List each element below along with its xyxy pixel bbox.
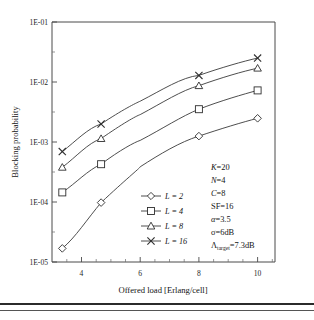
legend-label: L = 8 xyxy=(164,222,183,231)
legend-label: L = 16 xyxy=(164,237,188,246)
y-tick-label: 1E-05 xyxy=(29,258,48,267)
y-tick-label: 1E-04 xyxy=(29,198,48,207)
y-tick-label: 1E-03 xyxy=(29,138,48,147)
x-axis-ticks xyxy=(67,257,272,262)
param-symbol: SF xyxy=(211,202,221,211)
param-value: =6dB xyxy=(216,228,235,237)
x-tick-label: 4 xyxy=(80,269,84,278)
param-line-sigma: σ=6dB xyxy=(211,228,235,237)
x-tick-label: 10 xyxy=(254,269,262,278)
param-line-SF: SF=16 xyxy=(211,202,233,211)
legend-item-L16[interactable]: L = 16 xyxy=(141,237,188,246)
x-axis-tick-labels: 4 6 8 10 xyxy=(80,269,262,278)
parameter-annotations: K=20 N=4 C=8 SF=16 α=3.5 σ=6dB Λtarget=7… xyxy=(210,163,255,251)
legend-label: L = 4 xyxy=(164,207,183,216)
legend-item-L4[interactable]: L = 4 xyxy=(141,207,183,216)
legend-label: L = 2 xyxy=(164,192,183,201)
page-divider-thick xyxy=(0,303,314,305)
x-tick-label: 6 xyxy=(138,269,142,278)
param-value: =16 xyxy=(220,202,233,211)
page-divider-thin xyxy=(0,310,314,311)
param-line-K: K=20 xyxy=(210,163,230,172)
y-axis-tick-labels: 1E-01 1E-02 1E-03 1E-04 1E-05 xyxy=(29,18,48,267)
param-value: =8 xyxy=(217,189,226,198)
param-value: =20 xyxy=(217,163,230,172)
param-line-alpha: α=3.5 xyxy=(211,215,231,224)
legend-item-L8[interactable]: L = 8 xyxy=(141,222,183,231)
diamond-icon xyxy=(147,192,154,199)
legend: L = 2 L = 4 L = 8 L = 16 xyxy=(141,192,188,246)
legend-item-L2[interactable]: L = 2 xyxy=(141,192,183,201)
y-tick-label: 1E-02 xyxy=(29,78,48,87)
square-icon xyxy=(148,208,155,215)
series-L16 xyxy=(59,55,262,156)
x-axis-title: Offered load [Erlang/cell] xyxy=(118,285,207,295)
param-value: =4 xyxy=(217,176,227,185)
y-tick-label: 1E-01 xyxy=(29,18,48,27)
figure-container: 1E-01 1E-02 1E-03 1E-04 1E-05 4 6 8 10 O… xyxy=(0,0,314,320)
y-axis-title: Blocking probability xyxy=(10,106,20,178)
param-line-C: C=8 xyxy=(211,189,226,198)
param-subscript: target xyxy=(217,245,230,251)
param-value: =3.5 xyxy=(215,215,230,224)
param-value: =7.3dB xyxy=(230,241,255,250)
blocking-probability-chart: 1E-01 1E-02 1E-03 1E-04 1E-05 4 6 8 10 O… xyxy=(0,0,314,320)
y-axis-ticks xyxy=(52,22,57,262)
plot-frame xyxy=(52,22,275,262)
x-tick-label: 8 xyxy=(197,269,201,278)
param-line-N: N=4 xyxy=(210,176,226,185)
param-line-lambda-target: Λtarget=7.3dB xyxy=(211,241,255,251)
